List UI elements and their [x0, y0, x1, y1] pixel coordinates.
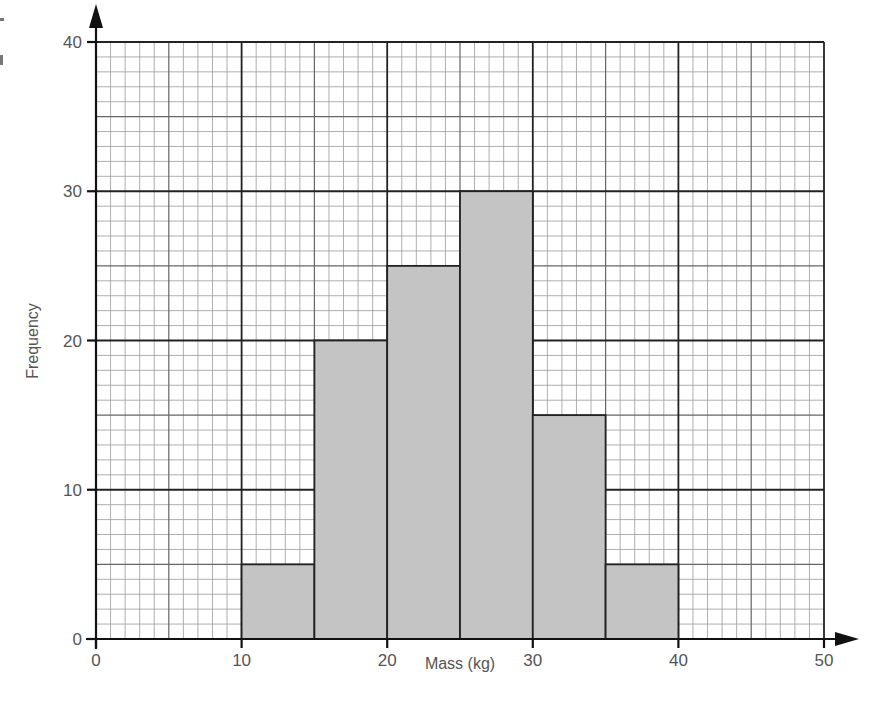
histogram-bar-25-30 — [460, 191, 533, 639]
histogram-bar-10-15 — [242, 564, 315, 639]
x-tick-label: 20 — [378, 651, 397, 670]
y-tick-label: 40 — [63, 33, 82, 52]
histogram-bar-20-25 — [387, 266, 460, 639]
y-tick-label: 0 — [73, 630, 82, 649]
x-tick-label: 40 — [669, 651, 688, 670]
y-tick-label: 10 — [63, 481, 82, 500]
y-tick-label: 30 — [63, 182, 82, 201]
y-tick-label: 20 — [63, 332, 82, 351]
x-tick-label: 10 — [232, 651, 251, 670]
x-tick-label: 0 — [91, 651, 100, 670]
histogram-bar-35-40 — [606, 564, 679, 639]
x-tick-label: 50 — [815, 651, 834, 670]
y-axis-title: Frequency — [24, 303, 41, 379]
histogram-bar-15-20 — [314, 341, 387, 640]
histogram-bar-30-35 — [533, 415, 606, 639]
y-axis-arrow-icon — [89, 4, 103, 28]
histogram-chart: 01020304050010203040 Mass (kg) Frequency — [0, 0, 879, 716]
x-axis-title: Mass (kg) — [425, 655, 495, 672]
x-axis-arrow-icon — [835, 632, 859, 646]
x-tick-label: 30 — [523, 651, 542, 670]
